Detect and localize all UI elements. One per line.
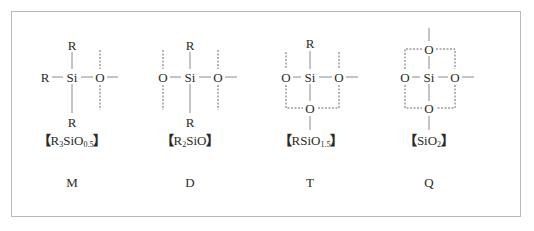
atom-si: Si bbox=[305, 70, 316, 85]
formula-m: 【R3SiO0.5】 bbox=[38, 130, 107, 149]
atom-r-left: R bbox=[41, 70, 50, 85]
unit-m-structure: R R Si O R bbox=[41, 38, 118, 130]
unit-q-structure: O O Si O O bbox=[400, 28, 474, 130]
atom-si: Si bbox=[424, 70, 435, 85]
siloxane-units-diagram: R R Si O R R O Si O R R O Si O bbox=[0, 0, 534, 231]
atom-o-left: O bbox=[281, 70, 290, 85]
unit-label-m: M bbox=[66, 175, 78, 191]
atom-r-top: R bbox=[68, 38, 77, 53]
atom-o-top: O bbox=[424, 42, 433, 57]
unit-d-structure: R O Si O R bbox=[158, 38, 237, 130]
atom-o-right: O bbox=[213, 70, 222, 85]
atom-si: Si bbox=[67, 70, 78, 85]
unit-label-d: D bbox=[185, 175, 194, 191]
formula-d: 【R2SiO】 bbox=[161, 130, 220, 149]
atom-r-bottom: R bbox=[186, 115, 195, 130]
atom-r-top: R bbox=[306, 36, 315, 51]
atom-r-bottom: R bbox=[68, 115, 77, 130]
unit-label-t: T bbox=[306, 175, 314, 191]
atom-o-right: O bbox=[95, 70, 104, 85]
atom-r-top: R bbox=[186, 38, 195, 53]
atom-si: Si bbox=[185, 70, 196, 85]
unit-label-q: Q bbox=[424, 175, 433, 191]
atom-o-right: O bbox=[334, 70, 343, 85]
formula-q: 【SiO2】 bbox=[404, 130, 454, 149]
atom-o-bottom: O bbox=[305, 101, 314, 116]
unit-t-structure: R O Si O O bbox=[281, 36, 358, 131]
atom-o-left: O bbox=[158, 70, 167, 85]
atom-o-right: O bbox=[450, 70, 459, 85]
atom-o-bottom: O bbox=[424, 101, 433, 116]
formula-t: 【RSiO1.5】 bbox=[279, 130, 344, 149]
atom-o-left: O bbox=[400, 70, 409, 85]
